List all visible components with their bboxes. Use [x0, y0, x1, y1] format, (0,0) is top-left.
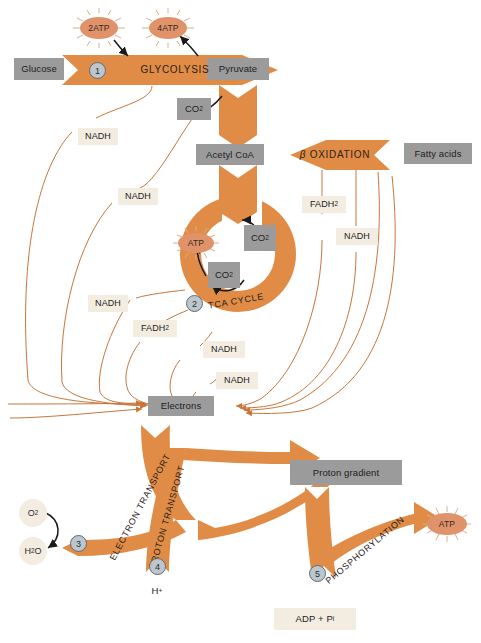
co2-text: CO — [185, 104, 199, 114]
phosphorylation-arrow — [305, 487, 440, 578]
step-number-3: 3 — [70, 535, 87, 552]
substrate-glucose: Glucose — [14, 58, 64, 80]
co2-text: CO — [215, 270, 229, 280]
o2-subscript: 2 — [35, 510, 39, 516]
energy-label-4atp: 4ATP — [149, 22, 187, 34]
carrier-fadh2-beta-oxidation: FADH2 — [302, 196, 346, 213]
fadh-subscript: 2 — [334, 201, 338, 207]
oxidation-text: OXIDATION — [310, 150, 371, 160]
step-number-5: 5 — [309, 565, 326, 582]
energy-label-atp-oxphos: ATP — [429, 518, 465, 530]
co2-subscript: 2 — [229, 272, 233, 279]
molecule-co2-tca-upper: CO2 — [244, 225, 276, 251]
co2-subscript: 2 — [199, 106, 203, 113]
molecule-co2-pyruvate: CO2 — [177, 98, 211, 120]
co2-subscript: 2 — [265, 235, 269, 242]
molecule-water: H2O — [18, 544, 48, 558]
carrier-nadh-tca-low: NADH — [216, 372, 258, 389]
diagram-canvas: Glucose Pyruvate CO2 Acetyl CoA Fatty ac… — [0, 0, 481, 643]
carrier-nadh-tca-left: NADH — [88, 295, 128, 312]
carrier-nadh-glycolysis: NADH — [78, 128, 118, 145]
substrate-fatty-acids: Fatty acids — [404, 143, 472, 164]
energy-label-atp-tca: ATP — [178, 237, 214, 249]
molecule-proton: H+ — [145, 584, 169, 598]
atp-out-arrow — [180, 36, 198, 56]
o2-text: O — [28, 509, 35, 518]
fadh-text: FADH — [141, 324, 165, 333]
fadh-subscript: 2 — [165, 325, 169, 331]
beta-symbol: β — [300, 150, 306, 160]
substrate-electrons: Electrons — [148, 396, 214, 416]
step-number-4: 4 — [149, 558, 166, 575]
molecule-adp-pi: ADP + Pi — [274, 608, 356, 630]
substrate-proton-gradient: Proton gradient — [290, 460, 402, 485]
h2o-o: O — [35, 547, 42, 556]
energy-label-2atp: 2ATP — [80, 22, 118, 34]
proton-charge: + — [158, 588, 162, 595]
adp-text: ADP + P — [296, 614, 333, 624]
carrier-nadh-pyruvate: NADH — [118, 188, 158, 205]
co2-text: CO — [251, 233, 265, 243]
adp-subscript: i — [333, 616, 335, 623]
atp-in-arrow — [114, 40, 128, 56]
step-number-1: 1 — [89, 62, 106, 79]
molecule-oxygen: O2 — [20, 506, 46, 520]
pathway-label-glycolysis: GLYCOLYSIS — [120, 63, 230, 77]
substrate-acetyl-coa: Acetyl CoA — [196, 144, 264, 165]
pathway-label-beta-oxidation: β OXIDATION — [296, 148, 374, 162]
carrier-nadh-tca-mid: NADH — [203, 341, 245, 358]
step-number-2: 2 — [186, 295, 203, 312]
carrier-nadh-beta-oxidation: NADH — [336, 228, 378, 245]
fadh-text: FADH — [310, 200, 334, 209]
proton-h: H — [152, 586, 159, 596]
carrier-fadh2-tca: FADH2 — [133, 320, 177, 337]
molecule-co2-tca-lower: CO2 — [208, 262, 240, 288]
